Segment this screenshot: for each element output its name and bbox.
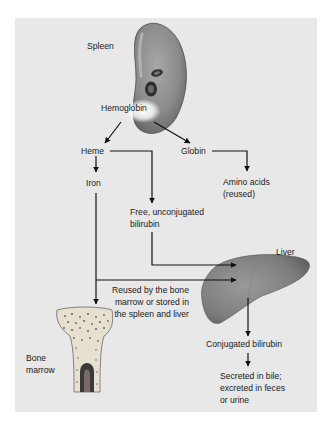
label-free-bilirubin: Free, unconjugated bilirubin [130, 206, 204, 230]
label-reused: Reused by the bone marrow or stored in t… [112, 284, 189, 320]
arrow-bilirubin-liver [152, 232, 236, 265]
label-iron: Iron [86, 177, 101, 189]
label-secreted: Secreted in bile; excreted in feces or u… [220, 370, 285, 406]
arrow-hemoglobin-heme [105, 122, 121, 143]
label-amino-acids: Amino acids (reused) [223, 176, 270, 200]
label-globin: Globin [181, 145, 206, 157]
label-bone-marrow: Bone marrow [26, 352, 55, 376]
arrow-heme-bilirubin [110, 151, 152, 203]
arrow-globin-aminoacids [212, 151, 247, 171]
label-heme: Heme [81, 145, 104, 157]
label-conjugated-bilirubin: Conjugated bilirubin [206, 338, 282, 350]
label-hemoglobin: Hemoglobin [101, 102, 147, 114]
bone-marrow-illustration [57, 307, 113, 392]
arrow-hemoglobin-globin [154, 122, 190, 143]
spleen-illustration [125, 23, 186, 133]
label-liver: Liver [276, 246, 295, 258]
arrows [96, 122, 248, 366]
label-spleen: Spleen [87, 40, 114, 52]
